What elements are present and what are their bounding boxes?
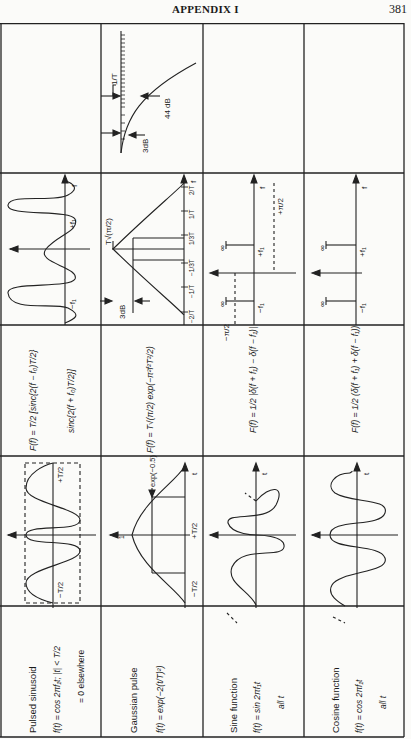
cos-spec-minus-f1: −f₁	[358, 303, 367, 313]
sine-spec-infinity-upper: ∞	[218, 245, 227, 251]
cos-spec-infinity-upper: ∞	[318, 245, 327, 251]
sinc-label-minus-f1: −f₁	[68, 299, 77, 309]
cosine-spectrum-formula: F(f) = 1/2 (δ(f + f₁) + δ(f − f₁))	[350, 326, 360, 433]
pulse-plus-T-over-2: +T/2	[56, 467, 65, 483]
sine-spec-plus-pi-over-2: +π/2	[276, 198, 285, 215]
sine-function-definition: f(t) = sin 2πf₁t	[252, 682, 262, 733]
gauss-tick-minus-1-over-3T: −1/3T	[188, 259, 195, 276]
cosine-function-definition: f(t) = cos 2πf₁t	[354, 680, 364, 734]
running-head: APPENDIX I	[0, 3, 411, 15]
gauss-tick-2-over-T: 2/T	[188, 186, 195, 195]
gaussian-spectrum-formula: F(f) = T√(π/2) exp(−π²f²T²/2)	[145, 346, 155, 453]
sine-spectrum-formula: F(f) = 1/2 |δ(f + f₁) − δ(f − f₁)|	[248, 327, 258, 433]
row-name-sine-function: Sine function	[228, 678, 239, 733]
fourier-transform-table: 1/T 3dB 44 dB −f₁ +f₁ f T√(π/2) 3dB −2/T…	[0, 23, 405, 739]
pulsed-sinusoid-spectrum-formula-2: sinc{2(f + f₀)T/2}]	[66, 369, 76, 433]
table-grid-lines	[0, 23, 405, 739]
gauss-time-plus-T-over-2: +T/2	[190, 523, 199, 539]
cos-spec-f-label: f	[360, 187, 369, 189]
pulse-minus-T-over-2: −T/2	[56, 582, 65, 598]
cos-spec-plus-f1: +f₁	[358, 247, 367, 257]
detail-label-3db: 3dB	[141, 139, 150, 153]
gaussian-pulse-definition: f(t) = exp(−2(t/T)²)	[155, 665, 165, 733]
sinc-label-f: f	[70, 185, 79, 187]
gauss-time-peak-1: 1	[118, 535, 125, 539]
cosine-function-domain: all t	[378, 696, 388, 709]
cosine-time-t-label: t	[362, 473, 371, 475]
page-header: APPENDIX I 381	[0, 2, 411, 18]
sine-spec-plus-f1: +f₁	[256, 247, 265, 257]
page-number: 381	[389, 2, 407, 17]
sine-spec-f-label: f	[258, 187, 267, 189]
row-name-pulsed-sinusoid: Pulsed sinusoid	[27, 666, 38, 733]
pulsed-sinusoid-sidelobe-plot	[101, 31, 196, 153]
row-name-gaussian-pulse: Gaussian pulse	[128, 668, 139, 733]
cos-spec-infinity-lower: ∞	[318, 301, 327, 307]
gauss-spec-f-label: f	[189, 181, 198, 183]
gaussian-spectrum-plot	[100, 175, 188, 325]
gauss-tick-minus-2-over-T: −2/T	[188, 310, 195, 323]
sine-time-t-label: t	[260, 473, 269, 475]
gauss-tick-1-over-T: 1/T	[188, 210, 195, 219]
sine-spec-infinity-lower: ∞	[218, 301, 227, 307]
sine-spec-minus-pi-over-2: −π/2	[222, 324, 231, 341]
pulsed-sinusoid-time-plot	[8, 463, 96, 608]
gauss-time-t-label: t	[190, 473, 199, 475]
sine-spec-minus-f1: −f₁	[256, 303, 265, 313]
detail-label-44db: 44 dB	[163, 98, 172, 119]
pulsed-sinusoid-spectrum-formula-1: F(f) = T/2 [sinc{2(f − f₀)T/2}	[28, 350, 38, 451]
pulsed-sinusoid-spectrum-plot	[8, 175, 90, 325]
pulsed-sinusoid-definition-2: = 0 elsewhere	[76, 650, 86, 703]
gauss-tick-1-over-3T: 1/3T	[188, 232, 195, 245]
cosine-time-plot	[312, 463, 398, 608]
sinc-label-plus-f1: +f₁	[68, 219, 77, 229]
sine-function-domain: all t	[276, 696, 286, 709]
gauss-tick-minus-1-over-T: −1/T	[188, 285, 195, 298]
sine-time-plot	[210, 463, 296, 608]
gauss-time-exp-label: exp(−0.5)	[148, 455, 157, 487]
pulsed-sinusoid-definition-1: f(t) = cos 2πf₁t; |t| < T/2	[52, 646, 62, 733]
gauss-spec-peak-label: T√(π/2)	[104, 218, 113, 245]
gauss-time-minus-T-over-2: −T/2	[190, 581, 199, 597]
row-name-cosine-function: Cosine function	[330, 668, 341, 733]
gauss-spec-3db-label: 3dB	[118, 305, 127, 319]
detail-label-1-over-T: 1/T	[110, 73, 119, 85]
